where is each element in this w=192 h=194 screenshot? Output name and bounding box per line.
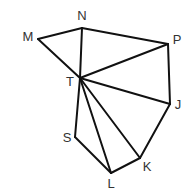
edge-ts [75,78,80,137]
edge-np [82,28,168,44]
vertex-label-j: J [175,97,182,112]
edge-mt [38,39,80,78]
edge-tk [80,78,140,158]
edge-mn [38,28,82,39]
vertex-label-t: T [66,74,74,89]
vertex-label-k: K [143,159,152,174]
edge-tj [80,78,170,104]
vertex-label-p: P [173,32,182,47]
vertex-label-n: N [77,8,86,23]
edge-pj [168,44,170,104]
vertex-label-s: S [63,130,72,145]
edge-lk [111,158,140,173]
edge-nt [80,28,82,78]
geometric-diagram: MNPTJSLK [0,0,192,194]
vertex-label-m: M [23,29,34,44]
edge-kj [140,104,170,158]
vertex-label-l: L [107,176,114,191]
edge-pt [80,44,168,78]
edge-group [38,28,170,173]
